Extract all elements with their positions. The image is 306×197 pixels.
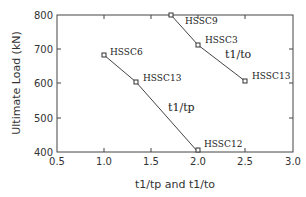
- point-label: HSSC6: [110, 47, 143, 57]
- y-tick-label: 400: [34, 147, 53, 158]
- y-tick-label: 700: [34, 44, 53, 55]
- x-tick-label: 1.0: [96, 156, 112, 167]
- point-label: HSSC9: [185, 16, 218, 26]
- point-label: HSSC12: [204, 139, 242, 149]
- y-axis-label: Ultimate Load (kN): [10, 31, 23, 135]
- series-annotation-t1-to: t1/to: [225, 48, 252, 61]
- chart: 0.5 1.0 1.5 2.0 2.5 3.0 400 500 600 700 …: [0, 0, 306, 197]
- series-annotation-t1-tp: t1/tp: [168, 101, 195, 114]
- x-tick-label: 1.5: [143, 156, 159, 167]
- x-tick-label: 2.5: [237, 156, 253, 167]
- y-tick-label: 600: [34, 78, 53, 89]
- plot-frame: [57, 15, 293, 152]
- y-tick-label: 800: [34, 10, 53, 21]
- point-label: HSSC3: [205, 35, 238, 45]
- point-label: HSSC13: [252, 71, 291, 81]
- y-tick-label: 500: [34, 113, 53, 124]
- x-tick-label: 3.0: [285, 156, 301, 167]
- x-axis-label: t1/tp and t1/to: [135, 178, 215, 191]
- point-label: HSSC13: [143, 73, 182, 83]
- x-tick-label: 2.0: [190, 156, 206, 167]
